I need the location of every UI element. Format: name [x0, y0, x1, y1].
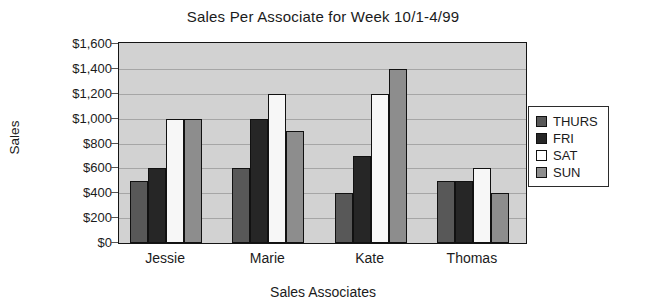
bar: [455, 181, 473, 243]
legend-label: FRI: [553, 132, 574, 145]
bar: [437, 181, 455, 243]
y-tick-label: $800: [22, 135, 112, 150]
bar: [286, 131, 304, 243]
y-tick-label: $1,400: [22, 60, 112, 75]
bar: [130, 181, 148, 243]
gridline: [119, 94, 526, 95]
y-tick-label: $0: [22, 235, 112, 250]
bar: [268, 94, 286, 243]
gridline: [119, 69, 526, 70]
bar: [148, 168, 166, 243]
y-tick-label: $1,200: [22, 85, 112, 100]
bar: [232, 168, 250, 243]
y-tick-label: $1,000: [22, 110, 112, 125]
bar: [371, 94, 389, 243]
legend-swatch-icon: [536, 133, 547, 144]
y-tick-label: $400: [22, 185, 112, 200]
x-axis-title: Sales Associates: [0, 284, 646, 300]
bar: [335, 193, 353, 243]
plot-area: [118, 42, 527, 244]
bar: [250, 119, 268, 243]
bar: [473, 168, 491, 243]
chart-title: Sales Per Associate for Week 10/1-4/99: [0, 8, 646, 25]
legend-label: SAT: [553, 149, 577, 162]
legend-swatch-icon: [536, 116, 547, 127]
bar: [389, 69, 407, 243]
legend-swatch-icon: [536, 167, 547, 178]
y-axis-title: Sales: [7, 108, 22, 168]
legend-label: THURS: [553, 115, 598, 128]
bar: [491, 193, 509, 243]
bar: [166, 119, 184, 243]
legend-item: SAT: [536, 147, 598, 163]
legend-item: SUN: [536, 164, 598, 180]
y-tick-label: $600: [22, 160, 112, 175]
y-tick-label: $1,600: [22, 36, 112, 51]
legend-swatch-icon: [536, 150, 547, 161]
legend-item: FRI: [536, 130, 598, 146]
legend-label: SUN: [553, 166, 580, 179]
x-tick-label: Marie: [250, 250, 285, 266]
bar: [353, 156, 371, 243]
legend-item: THURS: [536, 113, 598, 129]
bar: [184, 119, 202, 243]
x-tick-label: Jessie: [145, 250, 185, 266]
x-tick-label: Thomas: [447, 250, 498, 266]
bar-chart: Sales Per Associate for Week 10/1-4/99 S…: [0, 0, 646, 307]
x-tick-label: Kate: [355, 250, 384, 266]
chart-legend: THURSFRISATSUN: [528, 106, 609, 187]
y-tick-label: $200: [22, 210, 112, 225]
